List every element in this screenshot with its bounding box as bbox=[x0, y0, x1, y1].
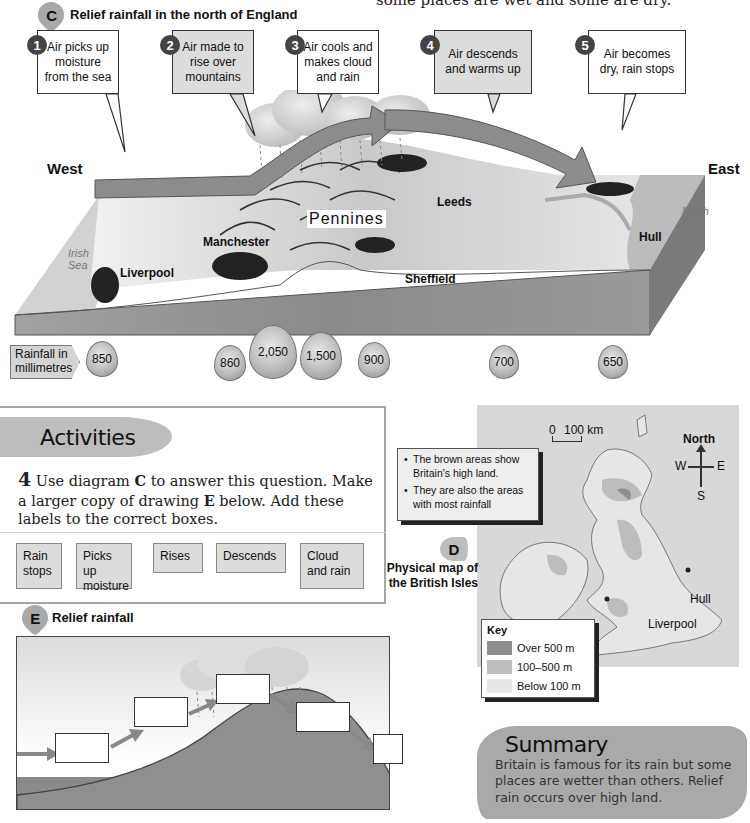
city-leeds: Leeds bbox=[437, 195, 472, 209]
answer-box-5[interactable] bbox=[373, 734, 403, 764]
city-hull: Hull bbox=[639, 230, 662, 244]
figure-e-title: Relief rainfall bbox=[52, 610, 134, 625]
answer-box-1[interactable] bbox=[55, 733, 109, 763]
swatch-over-500 bbox=[487, 641, 512, 655]
answer-box-4[interactable] bbox=[296, 702, 350, 732]
divider bbox=[0, 532, 386, 533]
callout-number-5: 5 bbox=[575, 35, 595, 55]
question-number: 4 bbox=[18, 468, 31, 490]
callout-3: Air cools and makes cloud and rain bbox=[297, 30, 379, 94]
scale-bar bbox=[552, 436, 582, 442]
rainfall-drop-pennines-east: 1,500 bbox=[300, 332, 342, 380]
rainfall-drop-liverpool: 850 bbox=[86, 341, 118, 377]
callout-4: Air descends and warms up bbox=[434, 30, 532, 94]
key-row-100-500: 100–500 m bbox=[487, 660, 589, 674]
intro-text: some places are wet and some are dry. bbox=[376, 0, 671, 9]
figure-d-tag: D bbox=[440, 537, 468, 561]
irish-sea-label: Irish Sea bbox=[68, 247, 98, 271]
callout-number-2: 2 bbox=[160, 35, 180, 55]
label-descends: Descends bbox=[216, 543, 286, 573]
rainfall-drop-pennines-peak: 2,050 bbox=[249, 325, 297, 379]
callout-pointers bbox=[0, 94, 750, 164]
figure-d-caption: Physical map of the British Isles bbox=[380, 561, 478, 591]
activities-heading-banner: Activities bbox=[0, 417, 172, 457]
callout-number-3: 3 bbox=[285, 35, 305, 55]
pennines-label: Pennines bbox=[307, 210, 386, 228]
callout-1: Air picks up moisture from the sea bbox=[37, 30, 119, 94]
city-manchester: Manchester bbox=[203, 235, 270, 249]
answer-box-2[interactable] bbox=[134, 697, 188, 727]
city-sheffield: Sheffield bbox=[405, 272, 456, 286]
compass-south: S bbox=[697, 489, 705, 503]
figure-c-title: Relief rainfall in the north of England bbox=[70, 7, 298, 22]
label-rises: Rises bbox=[153, 543, 203, 573]
map-city-liverpool: Liverpool bbox=[648, 617, 697, 631]
north-sea-label: North Sea bbox=[682, 205, 718, 229]
callout-number-4: 4 bbox=[420, 35, 440, 55]
label-cloud-and-rain: Cloud and rain bbox=[300, 543, 364, 589]
map-key: Key Over 500 m 100–500 m Below 100 m bbox=[481, 619, 595, 698]
map-note-item: They are also the areas with most rainfa… bbox=[404, 484, 532, 511]
rainfall-drop-hull: 650 bbox=[598, 345, 628, 379]
west-label: West bbox=[47, 160, 83, 177]
city-liverpool: Liverpool bbox=[120, 266, 174, 280]
key-row-below-100: Below 100 m bbox=[487, 679, 589, 693]
rainfall-label: Rainfall in millimetres bbox=[10, 345, 80, 379]
swatch-100-500 bbox=[487, 660, 512, 674]
north-arrow-icon bbox=[696, 444, 706, 452]
compass-east: E bbox=[717, 459, 725, 473]
summary-panel: Summary Britain is famous for its rain b… bbox=[477, 726, 747, 819]
swatch-below-100 bbox=[487, 679, 512, 693]
activities-heading: Activities bbox=[40, 425, 135, 450]
label-rain-stops: Rain stops bbox=[16, 543, 62, 589]
callout-2: Air made to rise over mountains bbox=[172, 30, 254, 94]
figure-e-tag: E bbox=[17, 600, 54, 637]
compass-we-line bbox=[688, 466, 714, 468]
summary-title: Summary bbox=[505, 732, 737, 757]
map-note: The brown areas show Britain's high land… bbox=[397, 448, 539, 521]
figure-c-tag: C bbox=[33, 0, 70, 33]
answer-box-3[interactable] bbox=[216, 674, 270, 704]
key-title: Key bbox=[487, 624, 589, 636]
map-city-hull: Hull bbox=[690, 592, 711, 606]
callout-number-1: 1 bbox=[27, 35, 47, 55]
rainfall-drop-leeds: 900 bbox=[358, 342, 390, 378]
label-picks-up-moisture: Picks up moisture bbox=[76, 543, 132, 589]
summary-body: Britain is famous for its rain but some … bbox=[495, 757, 737, 806]
scale-zero: 0 bbox=[549, 423, 556, 437]
east-label: East bbox=[708, 160, 740, 177]
compass-west: W bbox=[675, 459, 686, 473]
callout-5: Air becomes dry, rain stops bbox=[588, 30, 686, 94]
rainfall-drop-vale: 700 bbox=[489, 345, 519, 379]
scale-distance: 100 km bbox=[564, 423, 603, 437]
key-row-over-500: Over 500 m bbox=[487, 641, 589, 655]
rainfall-drop-manchester: 860 bbox=[214, 345, 246, 381]
map-note-item: The brown areas show Britain's high land… bbox=[404, 453, 532, 480]
question-4: 4 Use diagram C to answer this question.… bbox=[18, 468, 378, 528]
